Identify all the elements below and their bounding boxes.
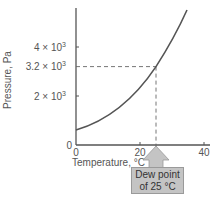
y-tick-label-0: 0 (66, 140, 72, 151)
y-tick-label-3200: 3.2 × 103 (26, 60, 66, 72)
y-axis-label: Pressure, Pa (2, 51, 13, 109)
chart: Pressure, Pa 4 × 103 3.2 × 103 2 × 103 0… (0, 0, 219, 201)
callout-line-1: Dew point (132, 169, 183, 181)
x-tick-label-40: 40 (198, 147, 210, 158)
dew-point-arrow-icon (143, 146, 169, 168)
y-tick-label-4000: 4 × 103 (34, 41, 66, 53)
y-tick-label-2000: 2 × 103 (34, 90, 66, 102)
callout-line-2: of 25 °C (132, 181, 183, 193)
vapor-pressure-curve (76, 10, 187, 130)
dew-point-callout: Dew point of 25 °C (131, 167, 184, 194)
